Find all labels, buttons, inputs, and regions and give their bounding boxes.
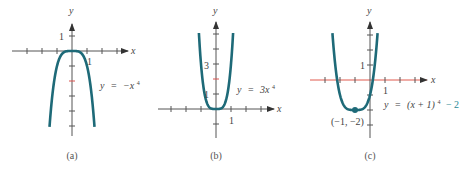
eq-rhs: −x bbox=[123, 80, 135, 91]
caption: (c) bbox=[364, 150, 375, 162]
y-tick-label-1: 1 bbox=[204, 89, 209, 100]
y-tick-label-1: 1 bbox=[59, 31, 64, 42]
panel-c: x y 1 1 (−1, −2) y = (x + 1) 4 − 2 (c) bbox=[310, 5, 459, 162]
eq-lhs: y bbox=[99, 80, 105, 91]
eq-exp: 4 bbox=[137, 80, 140, 86]
eq-equals: = bbox=[111, 80, 117, 91]
x-tick-label-1: 1 bbox=[87, 56, 92, 67]
vertex-point bbox=[352, 107, 358, 113]
curve bbox=[332, 33, 377, 110]
eq-rhs: (x + 1) bbox=[407, 99, 436, 111]
eq-exp: 4 bbox=[437, 99, 440, 105]
caption: (b) bbox=[210, 150, 222, 162]
eq-equals: = bbox=[248, 84, 254, 95]
vertex-label: (−1, −2) bbox=[331, 116, 364, 128]
panel-b: x y 3 1 1 y = 3x 4 (b) bbox=[158, 5, 282, 162]
eq-rhs: 3x bbox=[259, 84, 270, 95]
eq-equals: = bbox=[395, 99, 401, 110]
equation-label: y = (x + 1) 4 − 2 bbox=[383, 95, 459, 111]
eq-tail: − 2 bbox=[446, 99, 459, 110]
equation-label: y = 3x 4 bbox=[236, 84, 275, 95]
eq-lhs: y bbox=[236, 84, 242, 95]
eq-lhs: y bbox=[383, 99, 389, 110]
figure: x y 1 1 y = −x 4 (a) x y 3 1 1 y = 3x 4 … bbox=[0, 0, 460, 172]
eq-exp: 4 bbox=[272, 84, 275, 90]
x-axis-label: x bbox=[130, 45, 136, 56]
x-tick-label-1: 1 bbox=[229, 115, 234, 126]
x-axis-label: x bbox=[430, 74, 436, 85]
caption: (a) bbox=[66, 150, 77, 162]
y-axis-label: y bbox=[68, 5, 74, 16]
y-axis-label: y bbox=[212, 5, 218, 16]
x-axis-label: x bbox=[276, 103, 282, 114]
panel-a: x y 1 1 y = −x 4 (a) bbox=[12, 5, 140, 162]
y-tick-label-1: 1 bbox=[360, 60, 365, 71]
x-tick-label-1: 1 bbox=[383, 85, 388, 96]
y-tick-label-3: 3 bbox=[204, 60, 209, 71]
equation-label: y = −x 4 bbox=[99, 80, 140, 91]
y-axis-label: y bbox=[366, 5, 372, 16]
